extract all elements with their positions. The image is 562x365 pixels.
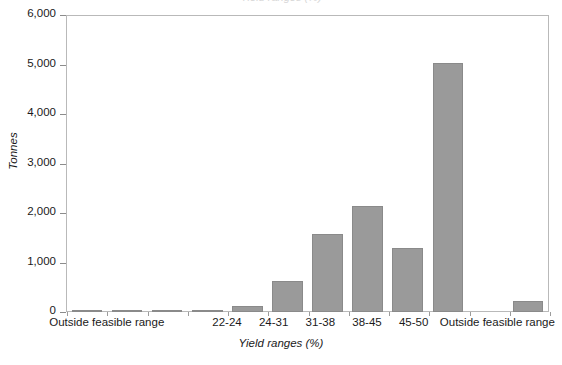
bar [513,301,543,312]
chart-title-text: Yield ranges (%) [0,0,562,3]
y-axis-tick-label: 5,000 [27,57,56,69]
y-axis-tick-label: 6,000 [27,7,56,19]
bar [312,234,342,312]
bar [352,206,382,312]
chart-title-cropped: Yield ranges (%) [0,0,562,5]
x-axis-category-labels: Outside feasible range22-2424-3131-3838-… [0,316,562,336]
bars-container [67,16,548,312]
y-axis-tick-label: 2,000 [27,205,56,217]
x-axis-category-label: Outside feasible range [216,316,562,328]
y-axis-tick-label: 0 [50,304,56,316]
y-axis-tick-label: 1,000 [27,255,56,267]
x-axis-title: Yield ranges (%) [0,337,562,349]
y-axis-title: Tonnes [7,121,19,181]
y-axis-tick-label: 3,000 [27,156,56,168]
y-axis-tick-label: 4,000 [27,106,56,118]
bar [392,248,422,312]
bar [272,281,302,312]
bar [433,63,463,312]
bar-chart: Yield ranges (%) Tonnes 01,0002,0003,000… [0,0,562,365]
